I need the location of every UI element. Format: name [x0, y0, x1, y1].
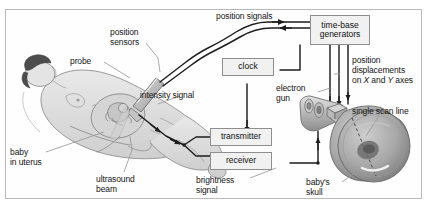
unit-receiver[interactable]: receiver [210, 152, 272, 170]
label-axes-suffix: axes [393, 75, 413, 85]
wire-position-signals-ret [163, 28, 310, 86]
unit-time-base-line2: generators [320, 30, 361, 39]
figure-canvas: time-base generators clock transmitter r… [0, 0, 434, 208]
leader-electron-gun [318, 88, 330, 92]
label-axes-prefix: on [352, 75, 364, 85]
label-intensity-signal: intensity signal [140, 91, 194, 101]
leader-position-sensors [146, 43, 160, 72]
label-position-signals: position signals [216, 12, 273, 22]
wire-brightness-signal [290, 131, 318, 163]
label-babys-skull-line2: skull [306, 188, 323, 198]
unit-clock[interactable]: clock [222, 58, 274, 76]
label-position-sensors-line2: sensors [110, 38, 139, 48]
label-ultrasound-beam-line2: beam [96, 185, 117, 195]
unit-time-base-generators[interactable]: time-base generators [310, 15, 370, 45]
label-brightness-signal-line2: signal [196, 186, 218, 196]
label-probe: probe [70, 57, 91, 67]
unit-transmitter-label: transmitter [221, 132, 261, 141]
label-single-scan-line: single scan line [352, 107, 409, 117]
wire-clock-timebase [280, 45, 300, 70]
label-baby-in-uterus-line2: in uterus [10, 158, 42, 168]
unit-clock-label: clock [238, 62, 257, 71]
unit-receiver-label: receiver [226, 156, 256, 165]
label-electron-gun-line2: gun [276, 94, 290, 104]
label-axes-mid: and [369, 75, 387, 85]
unit-transmitter[interactable]: transmitter [210, 128, 272, 146]
label-axes: on X and Y axes [352, 76, 413, 86]
